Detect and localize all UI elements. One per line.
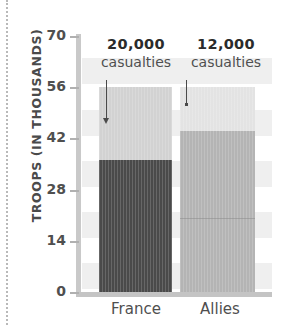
bar-france-segment-casualties [99, 87, 172, 160]
y-tick-14 [70, 241, 79, 243]
chart-figure: TROOPS (IN THOUSANDS) 70 56 42 28 14 0 F… [0, 0, 285, 325]
y-tick-28 [70, 190, 79, 192]
bar-allies-segment-troops [180, 131, 255, 292]
hatch-texture [180, 87, 255, 131]
x-tick-label-allies: Allies [180, 300, 260, 318]
page-left-dotted-border [6, 0, 8, 325]
bar-france-segment-troops [99, 160, 172, 292]
y-tick-label-0: 0 [26, 283, 66, 299]
y-tick-56 [70, 87, 79, 89]
x-tick-label-france: France [92, 300, 180, 318]
annotation-france-arrow [106, 80, 107, 120]
y-tick-label-14: 14 [26, 232, 66, 248]
annotation-france-value: 20,000 [86, 36, 186, 52]
bar-france[interactable] [99, 87, 172, 292]
annotation-allies-arrow [186, 80, 187, 104]
y-tick-label-56: 56 [26, 78, 66, 94]
y-tick-0 [70, 292, 79, 294]
y-tick-70 [70, 36, 79, 38]
annotation-france-arrowhead [103, 118, 109, 124]
bar-allies-inner-rule [180, 218, 255, 219]
y-axis-spine [76, 34, 81, 294]
hatch-texture [180, 131, 255, 292]
annotation-allies: 12,000 casualties [176, 36, 276, 70]
y-tick-label-70: 70 [26, 27, 66, 43]
annotation-france-caption: casualties [86, 54, 186, 70]
y-tick-label-42: 42 [26, 129, 66, 145]
bar-allies-segment-casualties [180, 87, 255, 131]
y-tick-label-28: 28 [26, 181, 66, 197]
bar-allies[interactable] [180, 87, 255, 292]
annotation-france: 20,000 casualties [86, 36, 186, 70]
y-axis-title: TROOPS (IN THOUSANDS) [29, 16, 44, 236]
hatch-texture [99, 160, 172, 292]
x-axis-baseline [76, 292, 272, 297]
annotation-allies-caption: casualties [176, 54, 276, 70]
y-tick-42 [70, 138, 79, 140]
annotation-allies-arrowhead [185, 103, 188, 106]
annotation-allies-value: 12,000 [176, 36, 276, 52]
hatch-texture [99, 87, 172, 160]
